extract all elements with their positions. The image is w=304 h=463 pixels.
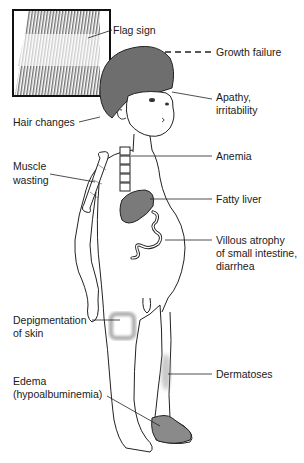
kwashiorkor-diagram: Flag sign Growth failure Apathy, irritab… xyxy=(0,0,304,463)
depigmentation-label-line1: Depigmentation xyxy=(13,314,87,326)
apathy-label-line1: Apathy, xyxy=(216,91,251,103)
arm-bone xyxy=(82,152,108,213)
edema-foot xyxy=(152,416,192,444)
depigmentation-label-line2: of skin xyxy=(13,327,43,339)
muscle-wasting-label-line1: Muscle xyxy=(13,160,46,172)
dermatoses-label: Dermatoses xyxy=(216,368,273,380)
hair-closeup-inset xyxy=(13,10,112,96)
apathy-label-line2: irritability xyxy=(216,104,257,116)
fatty-liver-label: Fatty liver xyxy=(216,193,262,205)
child-head xyxy=(100,46,174,152)
hair-changes-label: Hair changes xyxy=(13,116,75,128)
anemia-label: Anemia xyxy=(216,150,252,162)
vertebrae-column xyxy=(120,147,130,191)
villous-atrophy-label-line1: Villous atrophy xyxy=(216,234,285,246)
muscle-wasting-label-line2: wasting xyxy=(13,174,49,186)
dermatoses-area xyxy=(161,354,171,390)
flag-sign-label: Flag sign xyxy=(113,24,156,36)
hair-changes-leader xyxy=(79,117,100,122)
muscle-wasting-leader xyxy=(50,174,95,182)
fatty-liver-organ xyxy=(120,190,154,223)
edema-label-line2: (hypoalbuminemia) xyxy=(13,388,102,400)
edema-label-line1: Edema xyxy=(13,375,46,387)
villous-atrophy-label-line3: diarrhea xyxy=(216,260,255,272)
villous-atrophy-label-line2: of small intestine, xyxy=(216,247,297,259)
apathy-leader xyxy=(172,92,212,99)
edema-leader xyxy=(107,396,160,426)
depigmentation-patch xyxy=(111,314,134,338)
growth-failure-label: Growth failure xyxy=(216,46,281,58)
